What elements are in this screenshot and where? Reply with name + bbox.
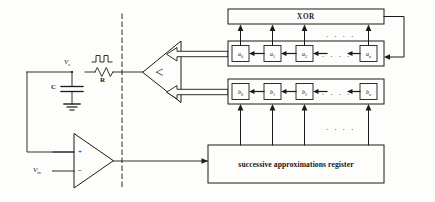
opamp-plus-sign: +: [78, 148, 82, 156]
cell-sub: 0: [241, 54, 243, 59]
operational-amplifier: [74, 134, 113, 188]
opamp-minus-sign: −: [78, 167, 82, 175]
a-register-ellipsis: . . . .: [322, 51, 351, 59]
cell-sub: n: [369, 54, 371, 59]
cell-sub: 1: [273, 54, 275, 59]
sar-adc-block-diagram: XOR successive approximations register <…: [0, 0, 435, 202]
comparator-glyph: <: [155, 64, 163, 81]
diagram-vector-layer: [0, 0, 435, 202]
a-register-cell-n-label: an: [360, 51, 377, 59]
b-register-cell-1-label: b1: [264, 89, 281, 97]
sar-taps-ellipsis: . . . .: [326, 124, 355, 132]
analog-feedback-rail: [27, 72, 74, 152]
cell-sub: 2: [305, 92, 307, 97]
a-register-cell-0-label: a0: [232, 51, 249, 59]
a-register-cell-1-label: a1: [264, 51, 281, 59]
cell-sub: 2: [305, 54, 307, 59]
xor-block-label: XOR: [228, 13, 384, 21]
xor-feedback-arrowhead: [384, 54, 390, 59]
xor-feedback-path: [384, 17, 404, 58]
b-register-ellipsis: . . . .: [322, 89, 351, 97]
cell-sub: n: [369, 92, 371, 97]
xor-taps-ellipsis: . . . .: [326, 31, 355, 39]
b-register-cell-0-label: b0: [232, 89, 249, 97]
comparator-input-arrow-lower: [167, 86, 228, 99]
b-register-cell-n-label: bn: [360, 89, 377, 97]
resistor-symbol: [95, 68, 113, 77]
a-register-cell-2-label: a2: [296, 51, 313, 59]
b-register-cell-2-label: b2: [296, 89, 313, 97]
cell-sub: 0: [241, 92, 243, 97]
comparator-input-arrow-upper: [167, 48, 228, 61]
sar-label: successive approximations register: [208, 160, 384, 169]
pulse-waveform-icon: [92, 56, 112, 63]
cell-sub: 1: [273, 92, 275, 97]
vc-junction-dot: [71, 71, 73, 73]
